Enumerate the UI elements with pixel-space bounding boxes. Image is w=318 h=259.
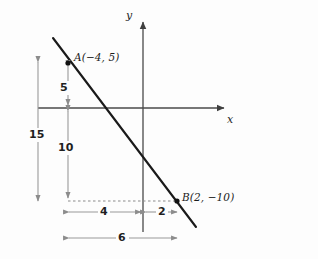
dim-label-10: 10 [58, 142, 73, 153]
dim-label-2: 2 [158, 206, 166, 217]
dim-label-6: 6 [118, 232, 126, 243]
dim-label-4: 4 [100, 206, 108, 217]
figure-canvas [0, 0, 318, 259]
dim-label-15: 15 [29, 129, 44, 140]
point-b-marker [174, 198, 179, 203]
dim-label-5: 5 [60, 82, 68, 93]
point-b-label: B(2, −10) [182, 192, 234, 203]
line-ab [53, 38, 196, 227]
y-axis-label: y [126, 10, 132, 21]
x-axis-label: x [227, 114, 233, 125]
geometry-figure: y x A(−4, 5) B(2, −10) 5 10 15 4 2 6 [0, 0, 318, 259]
point-a-label: A(−4, 5) [74, 52, 119, 63]
point-a-marker [65, 60, 70, 65]
